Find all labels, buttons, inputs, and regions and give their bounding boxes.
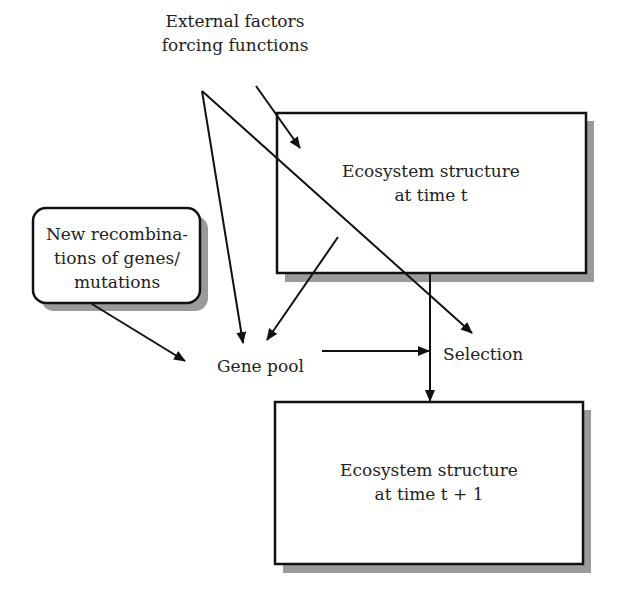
arrow-external-to-gene-pool — [202, 91, 243, 343]
node-gene-pool: Gene pool — [217, 356, 304, 376]
ecosystem-t1-line-1: Ecosystem structure — [340, 460, 518, 480]
external-factors-line-2: forcing functions — [162, 35, 309, 55]
ecosystem-t-line-2: at time t — [394, 185, 467, 205]
recombination-line-1: New recombina- — [46, 224, 188, 244]
ecosystem-t1-line-2: at time t + 1 — [375, 484, 484, 504]
ecosystem-t-line-1: Ecosystem structure — [342, 161, 520, 181]
recombination-line-3: mutations — [74, 272, 160, 292]
diagram-canvas: External factors forcing functions Ecosy… — [0, 0, 624, 604]
recombination-line-2: tions of genes/ — [54, 248, 180, 268]
external-factors-line-1: External factors — [166, 11, 305, 31]
node-selection: Selection — [443, 344, 523, 364]
node-new-recombinations: New recombina- tions of genes/ mutations — [33, 208, 208, 311]
node-ecosystem-time-t-plus-1: Ecosystem structure at time t + 1 — [275, 402, 591, 573]
arrow-recombination-to-gene-pool — [92, 304, 185, 361]
node-external-factors: External factors forcing functions — [162, 11, 309, 55]
box-frame — [275, 402, 583, 564]
